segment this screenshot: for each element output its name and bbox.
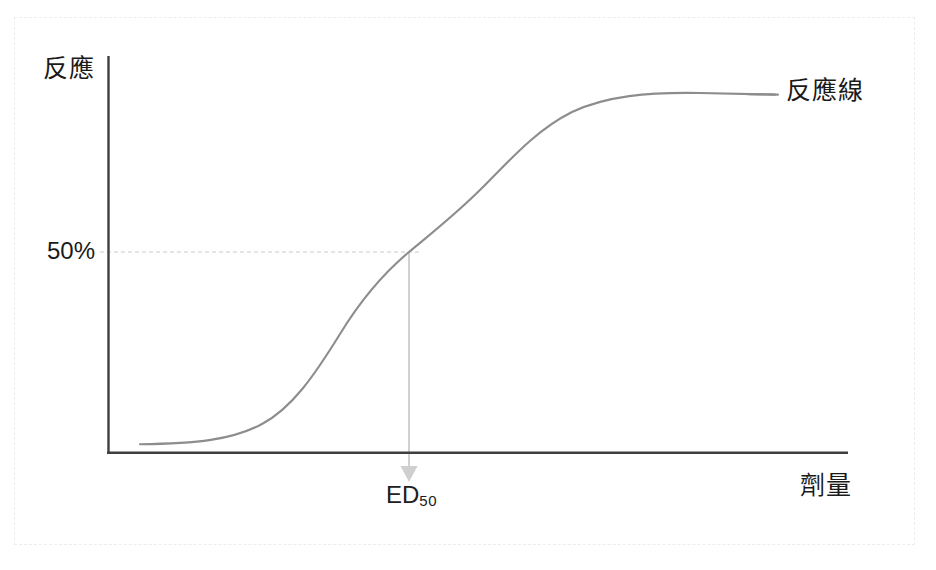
ed50-subscript-text: 50 xyxy=(419,492,437,509)
x-axis-title: 劑量 xyxy=(800,473,852,498)
y-axis-title: 反應 xyxy=(43,56,95,81)
half-max-tick-label: 50% xyxy=(47,239,95,263)
ed50-base-text: ED xyxy=(386,481,419,508)
series-label: 反應線 xyxy=(786,78,864,103)
figure-container: 反應 劑量 反應線 50% ED50 xyxy=(0,0,936,570)
ed50-arrow-head-icon xyxy=(401,466,418,482)
response-curve xyxy=(140,93,775,444)
ed50-tick-label: ED50 xyxy=(386,483,437,507)
